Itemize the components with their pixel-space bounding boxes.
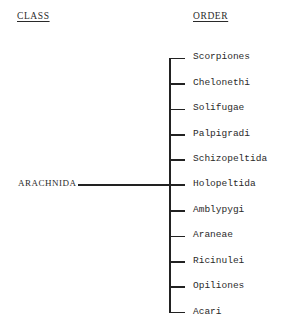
class-connector-line bbox=[78, 184, 170, 186]
order-tick bbox=[170, 236, 185, 238]
order-label: Araneae bbox=[193, 230, 233, 240]
order-tick bbox=[170, 134, 185, 136]
order-tick bbox=[170, 286, 185, 288]
order-tick bbox=[170, 159, 185, 161]
order-tick bbox=[170, 210, 185, 212]
class-column-header: CLASS bbox=[17, 11, 50, 21]
class-label: ARACHNIDA bbox=[18, 178, 77, 188]
order-tick bbox=[170, 312, 185, 314]
order-column-header: ORDER bbox=[193, 11, 228, 21]
order-label: Solifugae bbox=[193, 103, 244, 113]
order-tick bbox=[170, 83, 185, 85]
order-tick bbox=[170, 58, 185, 60]
order-label: Palpigradi bbox=[193, 129, 250, 139]
order-label: Holopeltida bbox=[193, 179, 256, 189]
order-label: Acari bbox=[193, 307, 222, 317]
order-tick bbox=[170, 261, 185, 263]
order-label: Opiliones bbox=[193, 281, 244, 291]
order-tick bbox=[170, 184, 185, 186]
order-label: Chelonethi bbox=[193, 78, 250, 88]
order-tick bbox=[170, 109, 185, 111]
order-label: Ricinulei bbox=[193, 256, 244, 266]
order-label: Schizopeltida bbox=[193, 154, 267, 164]
order-label: Amblypygi bbox=[193, 205, 244, 215]
order-label: Scorpiones bbox=[193, 52, 250, 62]
